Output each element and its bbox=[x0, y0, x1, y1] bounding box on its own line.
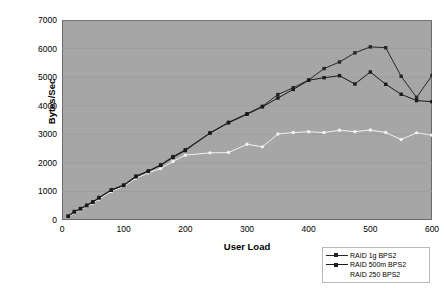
data-point-marker bbox=[208, 151, 211, 154]
data-point-marker bbox=[430, 133, 432, 136]
data-point-marker bbox=[399, 93, 402, 96]
x-tick-label: 100 bbox=[117, 224, 131, 234]
data-point-marker bbox=[384, 46, 387, 49]
data-point-marker bbox=[245, 113, 248, 116]
series-line bbox=[68, 72, 432, 217]
x-tick-label: 400 bbox=[302, 224, 316, 234]
data-point-marker bbox=[430, 100, 432, 103]
data-point-marker bbox=[261, 105, 264, 108]
data-point-marker bbox=[369, 45, 372, 48]
data-point-marker bbox=[322, 131, 325, 134]
data-point-marker bbox=[430, 74, 432, 77]
y-tick-label: 0 bbox=[52, 215, 57, 225]
data-point-marker bbox=[415, 99, 418, 102]
data-point-marker bbox=[415, 96, 418, 99]
data-series-layer bbox=[62, 20, 432, 220]
data-point-marker bbox=[276, 93, 279, 96]
plot-area bbox=[62, 20, 432, 220]
data-point-marker bbox=[261, 145, 264, 148]
data-point-marker bbox=[159, 167, 162, 170]
data-point-marker bbox=[171, 160, 174, 163]
data-point-marker bbox=[227, 121, 230, 124]
chart-container: 01000200030004000500060007000 0100200300… bbox=[0, 0, 444, 288]
x-tick-label: 0 bbox=[60, 224, 65, 234]
legend-marker-icon bbox=[326, 260, 348, 269]
legend-label: RAID 500m BPS2 bbox=[348, 260, 406, 269]
data-point-marker bbox=[184, 149, 187, 152]
data-point-marker bbox=[307, 79, 310, 82]
x-tick-label: 300 bbox=[240, 224, 254, 234]
x-tick-label: 500 bbox=[363, 224, 377, 234]
data-point-marker bbox=[227, 151, 230, 154]
data-point-marker bbox=[384, 131, 387, 134]
data-point-marker bbox=[171, 156, 174, 159]
data-point-marker bbox=[338, 129, 341, 132]
data-point-marker bbox=[369, 128, 372, 131]
data-point-marker bbox=[66, 215, 69, 218]
data-point-marker bbox=[338, 60, 341, 63]
x-tick-label: 600 bbox=[425, 224, 439, 234]
data-point-marker bbox=[322, 76, 325, 79]
y-tick-label: 7000 bbox=[38, 15, 57, 25]
data-point-marker bbox=[97, 196, 100, 199]
data-point-marker bbox=[276, 132, 279, 135]
data-point-marker bbox=[338, 74, 341, 77]
data-point-marker bbox=[292, 131, 295, 134]
data-point-marker bbox=[91, 201, 94, 204]
data-point-marker bbox=[384, 83, 387, 86]
y-tick-label: 1000 bbox=[38, 186, 57, 196]
data-point-marker bbox=[322, 67, 325, 70]
data-point-marker bbox=[184, 153, 187, 156]
legend-item: RAID 500m BPS2 bbox=[326, 260, 426, 269]
data-point-marker bbox=[292, 88, 295, 91]
data-point-marker bbox=[85, 204, 88, 207]
data-point-marker bbox=[245, 143, 248, 146]
data-point-marker bbox=[122, 184, 125, 187]
data-point-marker bbox=[307, 130, 310, 133]
y-axis-label: Bytes/Sec bbox=[46, 47, 57, 157]
legend-item: RAID 250 BPS2 bbox=[326, 270, 426, 279]
data-point-marker bbox=[73, 210, 76, 213]
data-point-marker bbox=[159, 164, 162, 167]
data-point-marker bbox=[353, 130, 356, 133]
data-point-marker bbox=[353, 51, 356, 54]
series-line bbox=[68, 130, 432, 217]
data-point-marker bbox=[399, 75, 402, 78]
legend-item: RAID 1g BPS2 bbox=[326, 251, 426, 260]
y-tick-label: 2000 bbox=[38, 158, 57, 168]
chart-legend: RAID 1g BPS2 RAID 500m BPS2 RAID 250 BPS… bbox=[322, 247, 430, 283]
x-tick-label: 200 bbox=[178, 224, 192, 234]
legend-label: RAID 1g BPS2 bbox=[348, 251, 396, 260]
data-point-marker bbox=[134, 175, 137, 178]
data-point-marker bbox=[276, 96, 279, 99]
data-point-marker bbox=[399, 138, 402, 141]
legend-label: RAID 250 BPS2 bbox=[348, 270, 400, 279]
data-point-marker bbox=[147, 170, 150, 173]
data-point-marker bbox=[415, 131, 418, 134]
data-point-marker bbox=[208, 131, 211, 134]
data-point-marker bbox=[369, 70, 372, 73]
data-point-marker bbox=[79, 207, 82, 210]
legend-marker-icon bbox=[326, 251, 348, 260]
data-point-marker bbox=[353, 82, 356, 85]
x-axis-ticks: 0100200300400500600 bbox=[62, 224, 432, 238]
data-point-marker bbox=[110, 189, 113, 192]
